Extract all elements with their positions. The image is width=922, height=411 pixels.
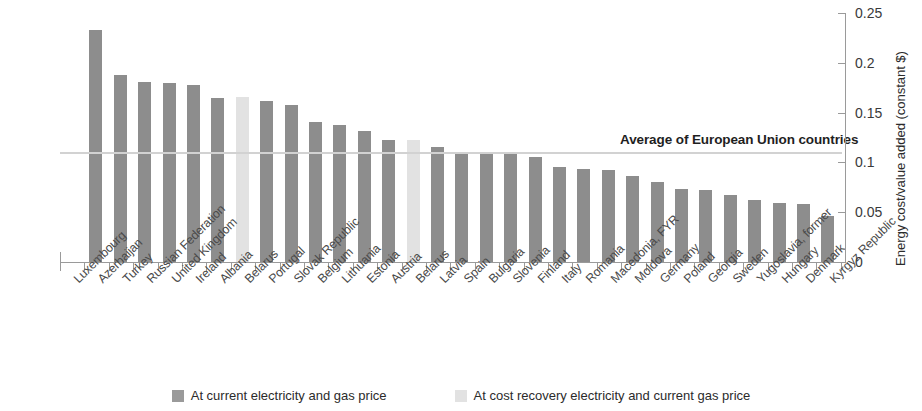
average-line bbox=[60, 152, 842, 154]
bar bbox=[382, 140, 395, 262]
bar bbox=[455, 152, 468, 262]
y-axis-tick bbox=[838, 212, 846, 213]
bar bbox=[138, 82, 151, 262]
bar-chart: Average of European Union countries Luxe… bbox=[0, 0, 922, 411]
bar bbox=[163, 83, 176, 262]
legend-entry: At current electricity and gas price bbox=[172, 388, 387, 403]
legend-swatch-light bbox=[455, 390, 467, 402]
bar bbox=[577, 169, 590, 262]
y-axis-tick bbox=[838, 13, 846, 14]
bar bbox=[480, 153, 493, 262]
legend-label: At cost recovery electricity and current… bbox=[474, 388, 751, 403]
y-axis-tick-label: 0 bbox=[855, 254, 863, 270]
y-axis-tick bbox=[838, 262, 846, 263]
legend-swatch-dark bbox=[172, 390, 184, 402]
y-axis-tick bbox=[838, 162, 846, 163]
legend-entry: At cost recovery electricity and current… bbox=[455, 388, 751, 403]
y-axis-tick bbox=[838, 113, 846, 114]
y-axis-line bbox=[845, 13, 846, 263]
y-axis-tick-label: 0.2 bbox=[855, 55, 874, 71]
bar bbox=[407, 140, 420, 262]
y-axis-title: Energy cost/value added (constant $) bbox=[893, 6, 908, 266]
bar bbox=[309, 122, 322, 262]
y-axis-tick bbox=[838, 63, 846, 64]
y-axis-tick-label: 0.1 bbox=[855, 154, 874, 170]
bar bbox=[236, 97, 249, 262]
bar bbox=[89, 30, 102, 262]
bar bbox=[260, 101, 273, 262]
y-axis-tick-label: 0.25 bbox=[855, 5, 882, 21]
bar bbox=[431, 147, 444, 262]
y-axis-tick-label: 0.15 bbox=[855, 105, 882, 121]
average-line-label: Average of European Union countries bbox=[620, 132, 858, 147]
x-axis-tick bbox=[60, 262, 61, 271]
bar bbox=[285, 105, 298, 262]
y-axis-tick-label: 0.05 bbox=[855, 204, 882, 220]
chart-legend: At current electricity and gas priceAt c… bbox=[0, 388, 922, 403]
legend-label: At current electricity and gas price bbox=[191, 388, 387, 403]
bar bbox=[358, 131, 371, 262]
